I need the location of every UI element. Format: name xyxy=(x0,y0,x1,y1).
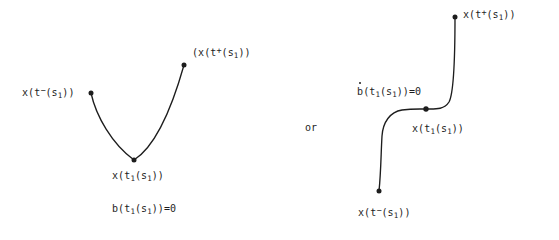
right-start-point-label: x(t−(s1)) xyxy=(358,206,411,220)
left-end-dot xyxy=(182,63,187,68)
right-curve-path xyxy=(379,17,455,191)
left-start-point-label: x(t−(s1)) xyxy=(22,86,75,100)
right-mid-pre: x(t xyxy=(412,123,430,134)
or-connector-text: or xyxy=(305,122,317,133)
right-condition-label: b(t1(s1))=0 xyxy=(357,86,421,99)
left-min-post: )) xyxy=(152,170,164,181)
left-end-pre: (x(t xyxy=(192,47,216,58)
left-condition-label: b(t1(s1))=0 xyxy=(112,203,176,216)
left-end-point-label: (x(t+(s1)) xyxy=(192,46,251,60)
left-minimum-dot xyxy=(132,158,137,163)
right-end-pre: x(t xyxy=(463,9,481,20)
right-end-mid: (s xyxy=(487,9,499,20)
left-cond-pre: b(t xyxy=(112,203,130,214)
left-curve-path xyxy=(91,65,184,160)
curve-layer xyxy=(0,0,559,240)
left-start-dot xyxy=(89,91,94,96)
left-min-mid: (s xyxy=(135,170,147,181)
right-mid-post: )) xyxy=(452,123,464,134)
right-end-point-label: x(t+(s1)) xyxy=(463,8,516,22)
right-start-mid: (s xyxy=(382,207,394,218)
left-start-post: )) xyxy=(62,87,74,98)
right-cond-accented-b: b xyxy=(357,86,363,97)
right-cond-post: ))=0 xyxy=(397,86,421,97)
left-start-mid: (s xyxy=(46,87,58,98)
left-end-mid: (s xyxy=(222,47,234,58)
right-start-post: )) xyxy=(398,207,410,218)
right-end-post: )) xyxy=(503,9,515,20)
left-minimum-point-label: x(t1(s1)) xyxy=(112,170,164,183)
left-min-pre: x(t xyxy=(112,170,130,181)
right-start-pre: x(t xyxy=(358,207,376,218)
left-start-pre: x(t xyxy=(22,87,40,98)
right-cond-mid: (s xyxy=(380,86,392,97)
right-mid-mid: (s xyxy=(435,123,447,134)
figure-canvas: x(t−(s1)) (x(t+(s1)) x(t1(s1)) b(t1(s1))… xyxy=(0,0,559,240)
right-middle-dot xyxy=(423,106,428,111)
right-middle-point-label: x(t1(s1)) xyxy=(412,123,464,136)
right-start-dot xyxy=(377,189,382,194)
left-end-post: )) xyxy=(238,47,250,58)
left-cond-post: ))=0 xyxy=(152,203,176,214)
right-cond-pre: (t xyxy=(363,86,375,97)
left-cond-mid: (s xyxy=(135,203,147,214)
right-end-dot xyxy=(453,15,458,20)
